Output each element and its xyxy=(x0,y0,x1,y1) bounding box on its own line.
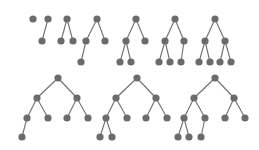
tree-node xyxy=(29,15,36,22)
tree-node xyxy=(180,37,187,44)
tree-node xyxy=(195,58,202,65)
tree-4-nodes xyxy=(77,15,108,65)
tree-node xyxy=(96,133,103,140)
tree-node xyxy=(241,114,248,121)
tree-node xyxy=(77,58,84,65)
tree-node xyxy=(73,94,80,101)
tree-10-nodes xyxy=(174,74,248,140)
tree-node xyxy=(166,58,173,65)
tree-5-nodes xyxy=(116,15,148,65)
tree-edge xyxy=(58,78,77,98)
tree-node xyxy=(206,58,213,65)
tree-node xyxy=(197,133,204,140)
tree-node xyxy=(221,114,228,121)
tree-node xyxy=(122,37,129,44)
tree-node xyxy=(23,114,30,121)
tree-8-nodes xyxy=(18,74,91,140)
tree-node xyxy=(180,114,187,121)
tree-edge xyxy=(137,78,156,98)
tree-9-nodes xyxy=(96,74,170,140)
tree-3-nodes xyxy=(57,15,76,44)
tree-node xyxy=(108,133,115,140)
tree-node xyxy=(216,58,223,65)
tree-2-nodes xyxy=(38,15,51,44)
tree-edge xyxy=(86,19,97,41)
tree-node xyxy=(211,74,218,81)
tree-node xyxy=(211,15,218,22)
tree-node xyxy=(63,114,70,121)
tree-node xyxy=(201,37,208,44)
tree-node xyxy=(93,15,100,22)
tree-node xyxy=(152,94,159,101)
tree-node xyxy=(185,133,192,140)
tree-node xyxy=(201,114,208,121)
tree-edge xyxy=(194,78,215,98)
tree-node xyxy=(38,37,45,44)
tree-node xyxy=(84,114,91,121)
tree-node xyxy=(174,133,181,140)
tree-node xyxy=(127,58,134,65)
tree-node xyxy=(227,58,234,65)
tree-node xyxy=(33,94,40,101)
tree-node xyxy=(177,58,184,65)
tree-node xyxy=(69,37,76,44)
tree-edge xyxy=(215,19,225,41)
tree-node xyxy=(142,114,149,121)
tree-node xyxy=(44,15,51,22)
tree-node xyxy=(44,114,51,121)
tree-node xyxy=(141,37,148,44)
tree-node xyxy=(161,37,168,44)
tree-node xyxy=(171,15,178,22)
tree-7-nodes xyxy=(195,15,234,65)
tree-node xyxy=(112,94,119,101)
tree-node xyxy=(101,37,108,44)
tree-node xyxy=(57,37,64,44)
tree-node xyxy=(18,133,25,140)
tree-edge xyxy=(37,78,58,98)
tree-node xyxy=(221,37,228,44)
tree-edge xyxy=(126,19,136,41)
tree-node xyxy=(82,37,89,44)
binary-tree-gallery-figure xyxy=(0,0,259,150)
tree-node xyxy=(230,94,237,101)
tree-6-nodes xyxy=(155,15,187,65)
tree-edge xyxy=(205,19,215,41)
tree-node xyxy=(116,58,123,65)
tree-node xyxy=(123,114,130,121)
tree-node xyxy=(155,58,162,65)
tree-diagram-canvas xyxy=(0,0,259,150)
tree-node xyxy=(132,15,139,22)
tree-node xyxy=(54,74,61,81)
tree-node xyxy=(63,15,70,22)
tree-node xyxy=(190,94,197,101)
tree-edge xyxy=(116,78,137,98)
tree-node xyxy=(133,74,140,81)
tree-node xyxy=(163,114,170,121)
tree-edge xyxy=(215,78,234,98)
tree-1-nodes xyxy=(29,15,36,22)
tree-edge xyxy=(165,19,175,41)
tree-node xyxy=(102,114,109,121)
